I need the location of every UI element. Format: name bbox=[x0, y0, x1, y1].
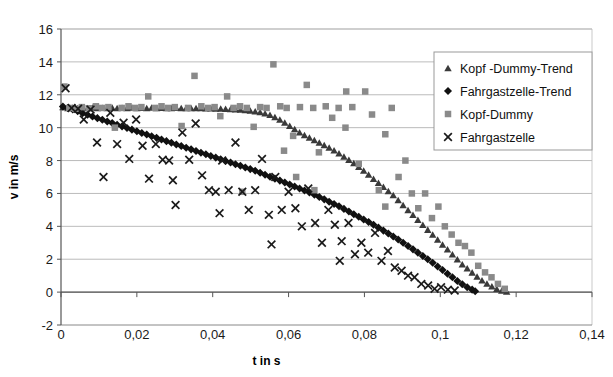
y-tick-label: 2 bbox=[46, 252, 53, 267]
data-point bbox=[402, 157, 409, 164]
data-point bbox=[310, 105, 317, 112]
y-tick-label: 4 bbox=[46, 219, 53, 234]
data-point bbox=[311, 187, 318, 194]
data-point bbox=[335, 105, 342, 112]
x-tick-label: 0,12 bbox=[503, 327, 528, 342]
data-point bbox=[217, 113, 224, 120]
legend-item-label[interactable]: Kopf -Dummy-Trend bbox=[460, 62, 573, 76]
data-point bbox=[211, 104, 218, 111]
y-tick-label: 8 bbox=[46, 154, 53, 169]
y-tick-label: 14 bbox=[39, 55, 53, 70]
y-tick-label: 16 bbox=[39, 22, 53, 37]
legend: Kopf -Dummy-TrendFahrgastzelle-TrendKopf… bbox=[434, 52, 592, 150]
data-point bbox=[172, 104, 179, 111]
data-point bbox=[488, 274, 495, 281]
x-tick-label: 0,02 bbox=[124, 327, 149, 342]
data-point bbox=[257, 104, 264, 111]
data-point bbox=[138, 104, 145, 111]
x-tick-label: 0 bbox=[57, 327, 64, 342]
data-point bbox=[158, 103, 165, 110]
y-tick-label: 6 bbox=[46, 186, 53, 201]
legend-item-label[interactable]: Fahrgastzelle bbox=[460, 131, 535, 145]
data-point bbox=[462, 243, 469, 250]
data-point bbox=[422, 190, 429, 197]
data-point bbox=[409, 190, 416, 197]
data-point bbox=[329, 115, 336, 122]
data-point bbox=[132, 105, 139, 112]
data-point bbox=[343, 88, 350, 95]
y-axis-title: v in m/s bbox=[7, 154, 21, 199]
data-point bbox=[435, 203, 442, 210]
data-point bbox=[362, 88, 369, 95]
data-point bbox=[316, 149, 323, 156]
data-point bbox=[388, 105, 395, 112]
data-point bbox=[349, 104, 356, 111]
data-point bbox=[250, 124, 256, 131]
data-point bbox=[283, 105, 290, 112]
y-axis-ticks: -20246810121416 bbox=[39, 22, 61, 333]
x-tick-label: 0,08 bbox=[352, 327, 377, 342]
data-point bbox=[263, 105, 270, 112]
data-point bbox=[355, 161, 362, 168]
data-point bbox=[448, 231, 455, 238]
y-tick-label: 12 bbox=[39, 88, 53, 103]
data-point bbox=[244, 105, 251, 112]
data-point bbox=[270, 61, 277, 68]
data-point bbox=[198, 103, 205, 110]
x-axis-title: t in s bbox=[252, 354, 280, 368]
chart-container: -2024681012141600,020,040,060,080,10,120… bbox=[0, 0, 613, 377]
data-point bbox=[415, 205, 422, 212]
data-point bbox=[178, 123, 185, 129]
data-point bbox=[342, 124, 349, 130]
data-point bbox=[429, 215, 436, 222]
data-point bbox=[145, 93, 152, 100]
data-point bbox=[322, 103, 329, 110]
data-point bbox=[442, 223, 449, 230]
data-point bbox=[99, 105, 106, 112]
data-point bbox=[112, 124, 119, 130]
velocity-time-scatter-chart: -2024681012141600,020,040,060,080,10,120… bbox=[0, 0, 613, 377]
x-tick-label: 0,14 bbox=[579, 327, 604, 342]
data-point bbox=[205, 105, 212, 112]
data-point bbox=[297, 104, 304, 111]
data-point bbox=[475, 263, 482, 270]
y-tick-label: 10 bbox=[39, 121, 53, 136]
legend-item-label[interactable]: Fahrgastzelle-Trend bbox=[460, 85, 571, 99]
data-point bbox=[293, 174, 300, 181]
y-tick-label: 0 bbox=[46, 285, 53, 300]
data-point bbox=[237, 103, 244, 110]
data-point bbox=[455, 240, 462, 247]
data-point bbox=[152, 105, 159, 112]
data-point bbox=[468, 249, 475, 256]
y-tick-label: -2 bbox=[41, 318, 53, 333]
data-point bbox=[185, 105, 192, 112]
legend-marker-square-icon bbox=[445, 111, 452, 118]
data-point bbox=[502, 286, 509, 293]
data-point bbox=[495, 281, 502, 288]
data-point bbox=[230, 105, 237, 112]
data-point bbox=[224, 93, 231, 100]
data-point bbox=[382, 131, 389, 138]
x-tick-label: 0,06 bbox=[276, 327, 301, 342]
data-point bbox=[304, 82, 311, 89]
data-point bbox=[165, 105, 172, 112]
data-point bbox=[395, 174, 402, 181]
data-point bbox=[191, 73, 198, 80]
data-point bbox=[125, 103, 131, 110]
data-point bbox=[376, 187, 383, 194]
data-point bbox=[118, 105, 125, 112]
data-point bbox=[290, 133, 297, 140]
data-point bbox=[369, 111, 376, 118]
data-point bbox=[277, 103, 284, 110]
data-point bbox=[482, 269, 489, 276]
data-point bbox=[281, 147, 288, 154]
x-tick-label: 0,04 bbox=[200, 327, 225, 342]
data-point bbox=[382, 203, 389, 210]
x-tick-label: 0,1 bbox=[431, 327, 449, 342]
legend-item-label[interactable]: Kopf-Dummy bbox=[460, 108, 534, 122]
